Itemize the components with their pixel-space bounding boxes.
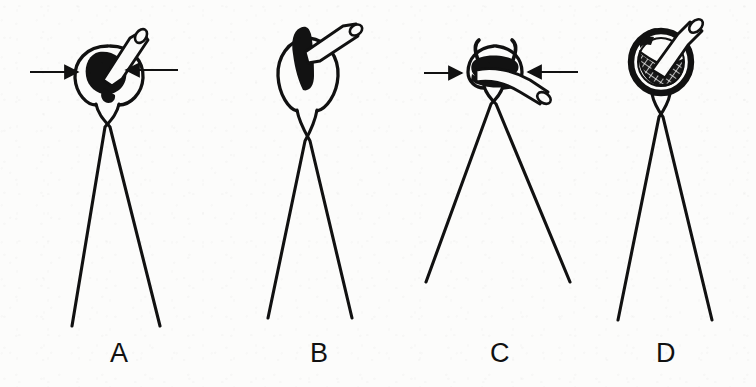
panel-label-d: D [656, 340, 676, 367]
panel-c-drawing [424, 40, 578, 282]
panel-b-forceps-legs [268, 110, 352, 318]
panel-label-a: A [110, 340, 129, 367]
panel-b-drawing [268, 22, 364, 318]
panel-label-b: B [310, 340, 329, 367]
panel-d-forceps-legs [618, 94, 712, 320]
panel-c-forceps-legs [426, 86, 570, 282]
panel-a-drawing [30, 27, 178, 326]
panel-a-forceps-legs [72, 104, 160, 326]
figure-drawing [0, 0, 756, 387]
panel-c-tube [476, 68, 553, 106]
panel-d-drawing [618, 17, 712, 320]
figure-container: A B C D [0, 0, 756, 387]
panel-label-c: C [490, 340, 510, 367]
